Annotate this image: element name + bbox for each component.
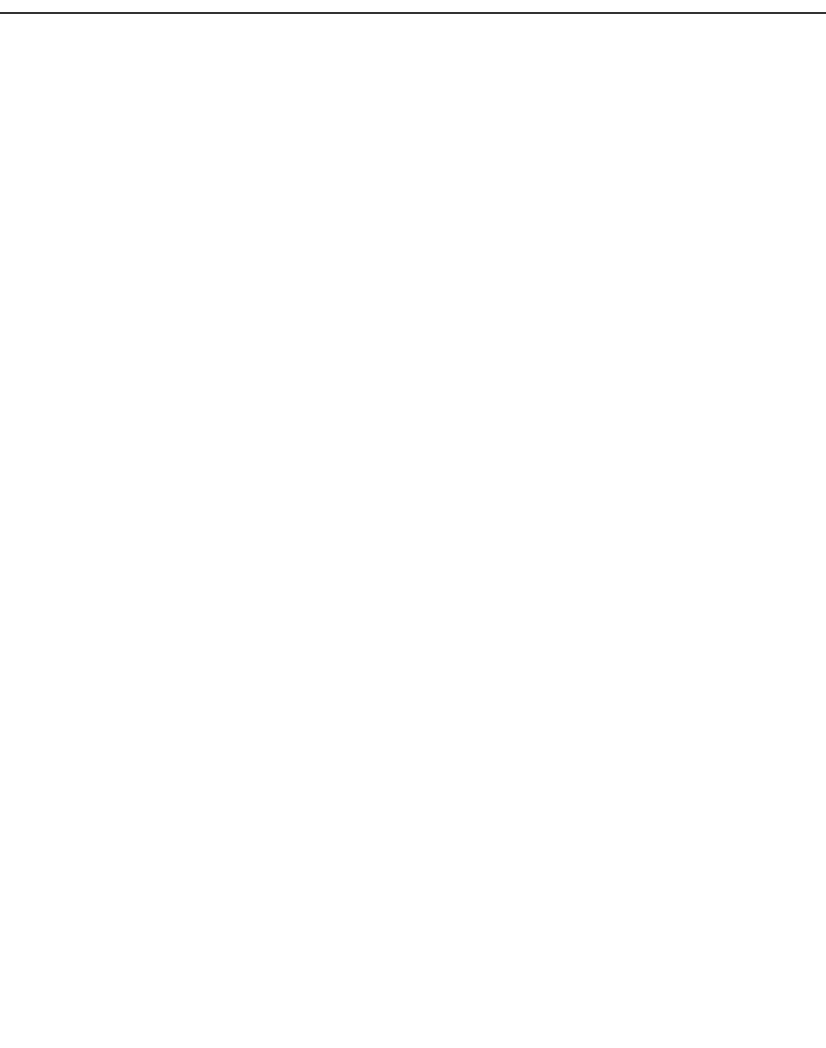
chart-figure [0,0,826,1048]
